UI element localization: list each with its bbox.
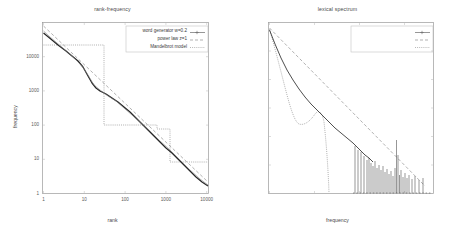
ytick-label: 1000 xyxy=(20,88,39,93)
legend-left: word generator w=0.2 power law z=1 Mande… xyxy=(128,26,190,50)
legend-label-word-generator: word generator w=0.2 xyxy=(142,28,187,33)
xaxis-label-right: frequency xyxy=(225,217,450,223)
series-word-generator-right-noise xyxy=(355,140,423,193)
series-word-generator-right xyxy=(270,30,374,162)
xaxis-label-left: rank xyxy=(0,217,225,223)
figure-two-loglog-plots: rank-frequency xyxy=(0,0,450,232)
xtick-label: 1 xyxy=(34,197,54,202)
ytick-label: 100 xyxy=(20,122,39,127)
legend-item-word-generator: word generator w=0.2 xyxy=(128,26,190,34)
series-power-law-right xyxy=(270,28,426,186)
xtick-label: 10000 xyxy=(197,197,217,202)
ytick-label: 1 xyxy=(20,191,39,196)
ytick-label: 10000 xyxy=(20,54,39,59)
series-mandelbrot-left xyxy=(44,45,209,162)
xtick-label: 10 xyxy=(74,197,94,202)
xtick-label: 100 xyxy=(115,197,135,202)
legend-item-power-law: power law z=1 xyxy=(128,34,190,42)
ytick-label: 10 xyxy=(20,156,39,161)
yaxis-label-left: frequency xyxy=(12,105,18,128)
plot-area-right xyxy=(225,0,450,232)
legend-label-power-law: power law z=1 xyxy=(158,36,188,41)
xtick-label: 1000 xyxy=(156,197,176,202)
legend-box-right xyxy=(351,26,433,52)
panel-rank-frequency: rank-frequency xyxy=(0,0,225,232)
legend-item-mandelbrot: Mandelbrot model xyxy=(128,42,190,50)
panel-lexical-spectrum: lexical spectrum xyxy=(225,0,450,232)
series-mandelbrot-right xyxy=(270,29,330,193)
legend-label-mandelbrot: Mandelbrot model xyxy=(150,44,187,49)
